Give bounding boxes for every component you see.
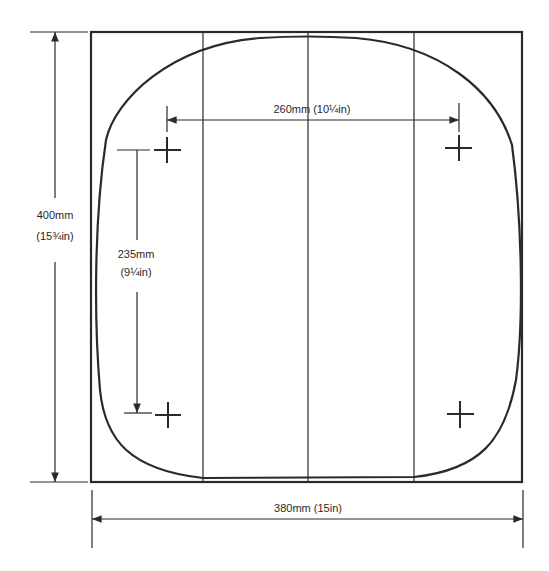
bottom-left-crosshair-icon	[155, 402, 181, 428]
bottom-right-crosshair-icon	[447, 401, 474, 428]
height-label-mm: 400mm	[37, 209, 74, 221]
divider-lines	[203, 32, 414, 482]
height-dimension: 400mm (15¾in)	[30, 32, 88, 482]
hole-spacing-horizontal: 260mm (10¼in)	[167, 103, 459, 132]
hole-spacing-vertical: 235mm (9¼in)	[117, 150, 154, 413]
template-diagram: 400mm (15¾in) 380mm (15in) 260mm (10¼in)…	[0, 0, 549, 571]
hole-spacing-vertical-label-in: (9¼in)	[120, 266, 151, 278]
top-left-crosshair-icon	[154, 137, 181, 163]
height-label-in: (15¾in)	[36, 230, 73, 242]
width-dimension: 380mm (15in)	[92, 490, 523, 548]
hole-spacing-horizontal-label: 260mm (10¼in)	[273, 103, 350, 115]
width-label: 380mm (15in)	[274, 502, 342, 514]
hole-spacing-vertical-label-mm: 235mm	[118, 248, 155, 260]
top-right-crosshair-icon	[445, 135, 472, 161]
